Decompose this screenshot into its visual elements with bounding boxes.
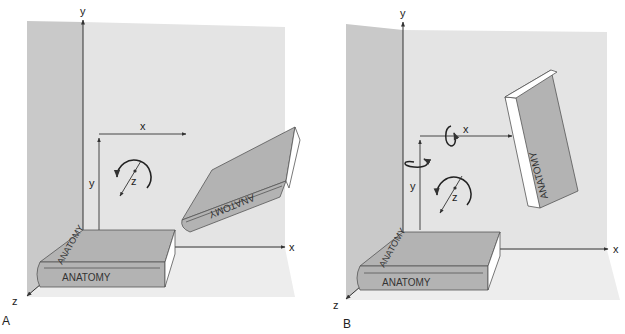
panel-label-b: B (343, 317, 351, 331)
z-axis-label: z (12, 295, 18, 307)
origin-dot (133, 169, 136, 172)
y-axis-label: y (400, 7, 406, 19)
origin-dot (453, 186, 456, 189)
local-x-label: x (463, 123, 469, 135)
local-z-label: z (452, 191, 458, 203)
figure-canvas: y x z x y z ANATOMY ANATOMY ANATOMY (0, 0, 625, 334)
back-wall (83, 22, 285, 248)
local-z-label: z (131, 175, 137, 187)
local-x-label: x (140, 120, 146, 132)
local-y-label: y (89, 177, 95, 189)
back-wall (403, 30, 607, 250)
x-axis-label: x (613, 243, 619, 255)
y-axis-label: y (80, 5, 86, 17)
x-axis-label: x (289, 241, 295, 253)
panel-a: y x z x y z ANATOMY ANATOMY ANATOMY (2, 5, 300, 328)
book-spine-title: ANATOMY (382, 277, 431, 288)
panel-b: y x z x y z ANATOMY ANATOMY ANATOMY B (333, 7, 620, 331)
book-spine-title: ANATOMY (62, 272, 111, 283)
panel-label-a: A (2, 314, 10, 328)
z-axis-label: z (333, 299, 339, 311)
local-y-label: y (410, 180, 416, 192)
